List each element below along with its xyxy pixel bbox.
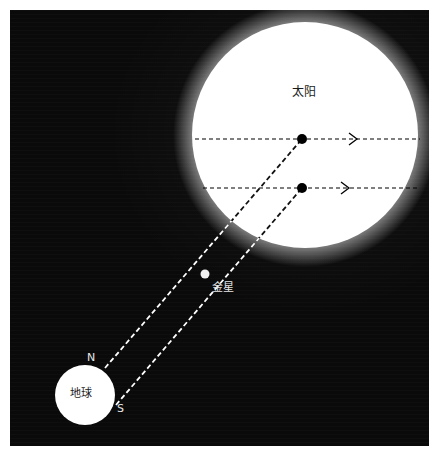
venus-transit-diagram: 太阳 金星 地球 N S (0, 0, 441, 458)
venus-label: 金星 (212, 282, 234, 293)
upper-transit-dot (297, 134, 307, 144)
north-pole-label: N (87, 352, 95, 363)
south-pole-label: S (117, 403, 124, 414)
sun-label: 太阳 (292, 86, 316, 98)
earth-label: 地球 (70, 388, 92, 399)
lower-transit-dot (297, 183, 307, 193)
venus-body (201, 270, 210, 279)
scene-svg (0, 0, 441, 458)
